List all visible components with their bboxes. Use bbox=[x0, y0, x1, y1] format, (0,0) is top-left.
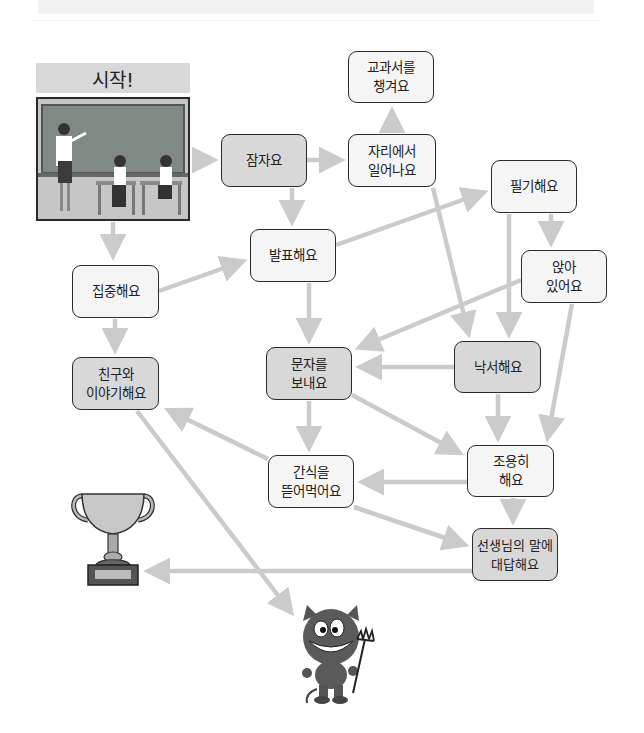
node-send-text: 문자를 보내요 bbox=[266, 347, 352, 400]
node-sleep: 잠자요 bbox=[221, 134, 307, 187]
node-be-quiet: 조용히 해요 bbox=[467, 445, 554, 497]
node-focus: 집중해요 bbox=[72, 265, 159, 318]
node-present: 발표해요 bbox=[250, 229, 336, 282]
start-label: 시작! bbox=[36, 63, 190, 93]
node-chat-friend: 친구와 이야기해요 bbox=[72, 357, 159, 410]
node-sit-still: 앉아 있어요 bbox=[521, 250, 607, 303]
devil-icon bbox=[295, 603, 380, 708]
trophy-icon bbox=[68, 490, 158, 590]
node-answer-teacher: 선생님의 말에 대답해요 bbox=[472, 528, 558, 581]
node-eat-snack: 간식을 뜯어먹어요 bbox=[268, 455, 354, 508]
node-pack-textbook: 교과서를 챙겨요 bbox=[348, 51, 434, 103]
classroom-scene-image bbox=[36, 97, 190, 221]
node-take-notes: 필기해요 bbox=[491, 160, 577, 213]
node-stand-up: 자리에서 일어나요 bbox=[348, 134, 436, 187]
node-doodle: 낙서해요 bbox=[454, 341, 541, 393]
